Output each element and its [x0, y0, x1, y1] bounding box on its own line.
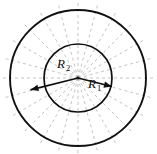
- radial-dashed-line: [78, 23, 133, 78]
- radial-dashed-line: [23, 78, 78, 133]
- concentric-circles-diagram: R 2 R 1: [0, 0, 157, 154]
- radial-dashed-line: [78, 58, 153, 78]
- radial-dashed-line: [78, 3, 98, 78]
- radial-dashed-line: [58, 78, 78, 153]
- r2-label-letter: R: [56, 56, 65, 71]
- r1-label-letter: R: [87, 76, 96, 91]
- r2-label: R 2: [56, 56, 70, 73]
- figure-container: R 2 R 1: [0, 0, 157, 154]
- r1-label: R 1: [87, 76, 101, 93]
- r2-label-subscript: 2: [66, 63, 70, 73]
- center-point: [77, 77, 80, 80]
- r1-label-subscript: 1: [97, 83, 101, 93]
